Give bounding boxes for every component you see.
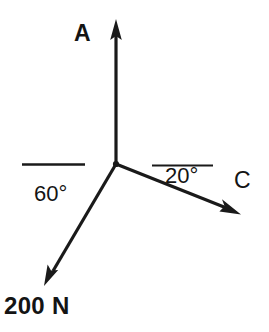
magnitude-200n-label: 200 N [4,294,70,318]
origin-point [113,161,119,167]
force-vector-diagram: A C 20° 60° 200 N [0,0,269,332]
angle-20-label: 20° [165,165,198,187]
vector-a-group [110,19,122,164]
vector-c-label: C [234,169,251,192]
angle-60-label: 60° [34,183,67,205]
vector-diagram-canvas [0,0,269,332]
vector-a-label: A [74,22,91,45]
